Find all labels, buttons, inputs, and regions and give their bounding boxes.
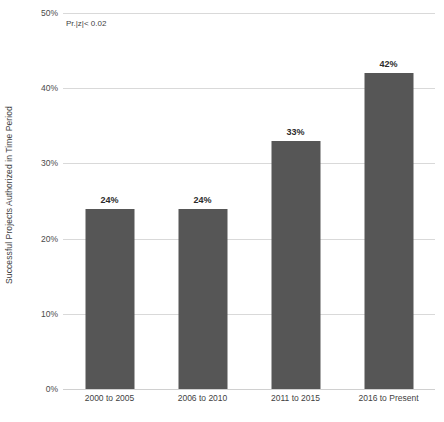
significance-annotation: Pr.|z|< 0.02 <box>66 19 106 28</box>
x-axis-tick-label: 2006 to 2010 <box>156 393 249 403</box>
x-axis-tick-label: 2011 to 2015 <box>249 393 342 403</box>
y-axis-tick-label: 0% <box>24 384 58 394</box>
y-axis-tick-label: 10% <box>24 309 58 319</box>
bar-chart: Successful Projects Authorized in Time P… <box>0 0 444 422</box>
bar <box>178 209 227 389</box>
bar <box>85 209 134 389</box>
bar-value-label: 42% <box>379 59 397 69</box>
y-axis-title: Successful Projects Authorized in Time P… <box>0 0 18 390</box>
bar-group: 33% <box>249 13 342 389</box>
bar <box>271 141 320 389</box>
y-axis-tick-label: 20% <box>24 234 58 244</box>
x-axis-tick-labels: 2000 to 20052006 to 20102011 to 20152016… <box>63 393 435 409</box>
bar-group: 42% <box>342 13 435 389</box>
gridline <box>63 389 435 390</box>
bar-value-label: 24% <box>100 195 118 205</box>
x-axis-tick-label: 2016 to Present <box>342 393 435 403</box>
y-axis-tick-labels: 0%10%20%30%40%50% <box>20 13 58 389</box>
bar-group: 24% <box>156 13 249 389</box>
y-axis-tick-label: 40% <box>24 83 58 93</box>
bar-value-label: 33% <box>286 127 304 137</box>
bar-value-label: 24% <box>193 195 211 205</box>
x-axis-tick-label: 2000 to 2005 <box>63 393 156 403</box>
bar <box>364 73 413 389</box>
bar-group: 24% <box>63 13 156 389</box>
x-axis-title <box>63 412 435 422</box>
y-axis-title-text: Successful Projects Authorized in Time P… <box>4 106 14 284</box>
plot-area: 24%24%33%42% <box>63 13 435 389</box>
y-axis-tick-label: 30% <box>24 158 58 168</box>
y-axis-tick-label: 50% <box>24 8 58 18</box>
